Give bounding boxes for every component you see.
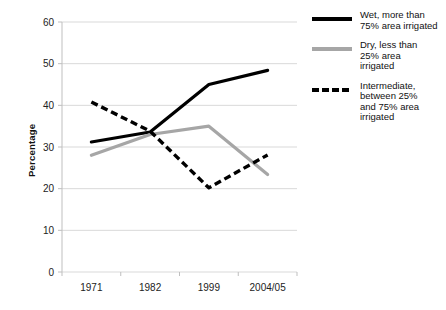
legend-label-wet-line1: Wet, more than — [360, 9, 425, 20]
data-series-group — [91, 70, 267, 187]
legend-label-wet: Wet, more than 75% area irrigated — [360, 10, 438, 31]
legend-label-dry: Dry, less than 25% area irrigated — [360, 40, 417, 72]
y-axis-line — [58, 22, 62, 272]
legend-item-wet: Wet, more than 75% area irrigated — [312, 10, 446, 31]
legend-label-dry-line3: irrigated — [360, 60, 394, 71]
legend-swatch-dashed-line-icon — [312, 84, 352, 96]
legend-swatch-solid-line-icon — [312, 13, 352, 25]
series-line-1 — [91, 126, 267, 174]
y-tick-label: 10 — [43, 225, 55, 236]
x-tick-labels: 1971198219992004/05 — [80, 282, 286, 293]
legend-swatch-gray-line-icon — [312, 43, 352, 55]
x-tick-label: 2004/05 — [250, 282, 287, 293]
chart-figure: 0102030405060 1971198219992004/05 Percen… — [0, 0, 446, 310]
legend-label-wet-line2: 75% area irrigated — [360, 20, 438, 31]
x-tick-label: 1971 — [80, 282, 103, 293]
legend-item-intermediate: Intermediate, between 25% and 75% area i… — [312, 81, 446, 123]
legend-label-intermediate-line1: Intermediate, — [360, 80, 415, 91]
legend-label-intermediate: Intermediate, between 25% and 75% area i… — [360, 81, 419, 123]
x-tick-label: 1999 — [198, 282, 221, 293]
legend-label-intermediate-line3: and 75% area — [360, 101, 419, 112]
y-tick-label: 20 — [43, 183, 55, 194]
legend-item-dry: Dry, less than 25% area irrigated — [312, 40, 446, 72]
y-tick-label: 60 — [43, 17, 55, 28]
y-tick-label: 30 — [43, 142, 55, 153]
chart-legend: Wet, more than 75% area irrigated Dry, l… — [312, 10, 446, 132]
x-tick-label: 1982 — [139, 282, 162, 293]
y-tick-label: 50 — [43, 58, 55, 69]
x-axis-ticks — [62, 272, 297, 276]
legend-label-intermediate-line4: irrigated — [360, 111, 394, 122]
y-tick-labels: 0102030405060 — [43, 17, 55, 278]
y-tick-label: 0 — [48, 267, 54, 278]
gridlines — [62, 22, 297, 272]
legend-label-dry-line2: 25% area — [360, 50, 401, 61]
y-tick-label: 40 — [43, 100, 55, 111]
legend-label-dry-line1: Dry, less than — [360, 39, 417, 50]
legend-label-intermediate-line2: between 25% — [360, 90, 418, 101]
y-axis-title: Percentage — [26, 124, 37, 177]
